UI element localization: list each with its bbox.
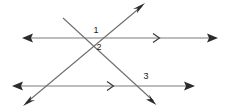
angle-label-1: 1: [93, 25, 98, 35]
transversal-down-right: [63, 18, 157, 105]
transversal-down-right-segment: [63, 18, 154, 101]
transversal-up-right-segment: [26, 6, 142, 103]
angle-label-2: 2: [96, 42, 101, 52]
lower-horizontal-line: [12, 81, 195, 90]
transversal-up-right: [23, 3, 145, 106]
geometry-diagram: 1 2 3: [0, 0, 230, 110]
upper-horizontal-line: [22, 33, 218, 42]
geometry-canvas: 1 2 3: [0, 0, 230, 110]
angle-label-3: 3: [143, 71, 148, 81]
